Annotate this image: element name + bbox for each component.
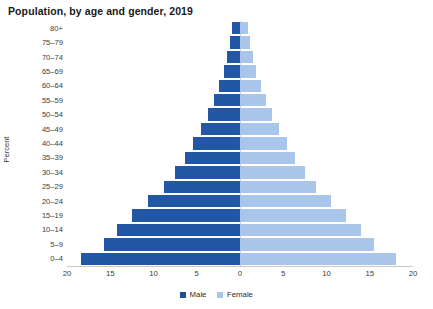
y-axis-tick-label: 25–29 — [0, 182, 63, 191]
y-axis-tick-label: 30–34 — [0, 168, 63, 177]
bar-female[interactable] — [240, 22, 248, 34]
y-axis-tick-label: 20–24 — [0, 197, 63, 206]
bar-female[interactable] — [240, 51, 253, 63]
pyramid-row — [67, 21, 413, 35]
y-axis-tick-label: 5–9 — [0, 240, 63, 249]
bar-female[interactable] — [240, 224, 361, 236]
y-axis-tick-label: 0–4 — [0, 254, 63, 263]
pyramid-row — [67, 122, 413, 136]
bar-male[interactable] — [219, 80, 240, 92]
pyramid-row — [67, 180, 413, 194]
x-axis-tick-label: 5 — [195, 269, 199, 278]
bar-male[interactable] — [230, 36, 240, 48]
y-axis-tick-label: 40–44 — [0, 139, 63, 148]
pyramid-row — [67, 151, 413, 165]
pyramid-row — [67, 194, 413, 208]
pyramid-row — [67, 165, 413, 179]
bar-female[interactable] — [240, 65, 256, 77]
pyramid-row — [67, 237, 413, 251]
bar-male[interactable] — [224, 65, 240, 77]
x-axis-tick-label: 10 — [149, 269, 158, 278]
pyramid-row — [67, 223, 413, 237]
x-axis-tick-label: 20 — [63, 269, 72, 278]
bar-female[interactable] — [240, 209, 346, 221]
y-axis-tick-label: 45–49 — [0, 125, 63, 134]
bar-male[interactable] — [104, 238, 240, 250]
y-axis-tick-labels: 80+75–7970–7465–6960–6455–5950–5445–4940… — [0, 21, 63, 266]
bar-female[interactable] — [240, 195, 331, 207]
x-axis-tick-label: 10 — [322, 269, 331, 278]
x-axis-tick-label: 15 — [106, 269, 115, 278]
chart-legend: Male Female — [0, 290, 433, 299]
pyramid-row — [67, 35, 413, 49]
y-axis-tick-label: 55–59 — [0, 96, 63, 105]
pyramid-row — [67, 252, 413, 266]
bar-male[interactable] — [201, 123, 240, 135]
legend-swatch-male-icon — [180, 292, 186, 298]
pyramid-row — [67, 107, 413, 121]
bar-male[interactable] — [185, 152, 240, 164]
y-axis-tick-label: 10–14 — [0, 225, 63, 234]
bar-female[interactable] — [240, 166, 305, 178]
y-axis-tick-label: 50–54 — [0, 110, 63, 119]
bar-male[interactable] — [175, 166, 240, 178]
pyramid-row — [67, 136, 413, 150]
bar-female[interactable] — [240, 123, 279, 135]
pyramid-row — [67, 50, 413, 64]
x-axis-line — [67, 266, 413, 267]
bar-male[interactable] — [227, 51, 240, 63]
bar-male[interactable] — [193, 137, 240, 149]
pyramid-row — [67, 93, 413, 107]
x-axis-tick-label: 5 — [281, 269, 285, 278]
bar-female[interactable] — [240, 137, 287, 149]
legend-item-male[interactable]: Male — [180, 290, 206, 299]
bar-female[interactable] — [240, 94, 266, 106]
y-axis-tick-label: 75–79 — [0, 38, 63, 47]
bar-male[interactable] — [208, 108, 240, 120]
x-axis-tick-labels: 201510505101520 — [0, 269, 433, 283]
x-axis-tick-label: 0 — [238, 269, 242, 278]
bar-female[interactable] — [240, 36, 250, 48]
y-axis-tick-label: 80+ — [0, 24, 63, 33]
y-axis-tick-label: 60–64 — [0, 81, 63, 90]
pyramid-row — [67, 208, 413, 222]
bar-female[interactable] — [240, 80, 261, 92]
pyramid-row — [67, 64, 413, 78]
y-axis-tick-label: 65–69 — [0, 67, 63, 76]
legend-label-female: Female — [227, 290, 253, 299]
bar-male[interactable] — [232, 22, 240, 34]
bar-male[interactable] — [81, 253, 240, 265]
x-axis-tick-label: 20 — [409, 269, 418, 278]
pyramid-row — [67, 79, 413, 93]
legend-swatch-female-icon — [217, 292, 223, 298]
population-pyramid-plot — [67, 21, 413, 266]
bar-male[interactable] — [117, 224, 240, 236]
y-axis-tick-label: 70–74 — [0, 53, 63, 62]
bar-male[interactable] — [132, 209, 240, 221]
bar-male[interactable] — [164, 181, 240, 193]
page-title: Population, by age and gender, 2019 — [8, 5, 193, 17]
legend-label-male: Male — [190, 290, 207, 299]
bar-male[interactable] — [148, 195, 240, 207]
bar-female[interactable] — [240, 238, 374, 250]
y-axis-tick-label: 15–19 — [0, 211, 63, 220]
bar-male[interactable] — [214, 94, 240, 106]
y-axis-tick-label: 35–39 — [0, 153, 63, 162]
bar-female[interactable] — [240, 152, 295, 164]
bar-female[interactable] — [240, 108, 272, 120]
bar-female[interactable] — [240, 253, 396, 265]
legend-item-female[interactable]: Female — [217, 290, 253, 299]
x-axis-tick-label: 15 — [365, 269, 374, 278]
bar-female[interactable] — [240, 181, 316, 193]
